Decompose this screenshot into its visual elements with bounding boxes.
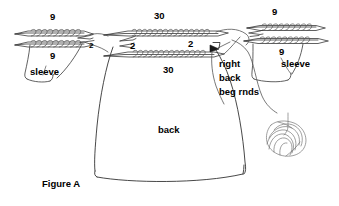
back-bottom-stitch-count: 30 [163,64,174,75]
needle-right-sleeve-lower [244,39,328,44]
needle-center-lower [104,52,224,57]
arrow-marker-icon [210,43,220,53]
needle-right-sleeve-upper [247,26,325,31]
right-sleeve-bottom-stitch-count: 9 [279,46,284,57]
back-label: back [158,124,180,135]
stitches-center-upper [132,29,209,36]
back-needle-count-left: 2 [130,40,135,51]
left-sleeve-top-stitch-count: 9 [50,11,55,22]
back-needle-count-right: 2 [188,38,193,49]
left-sleeve-label: sleeve [30,66,59,77]
needle-tips-right-sleeve-left [249,30,263,37]
needle-left-sleeve-upper [15,31,93,36]
marker-note-line1: right [219,58,240,69]
join-curves-left [93,34,108,52]
figure-a-diagram: 9 9 2 sleeve 30 2 2 30 back 9 9 sleeve r… [0,0,339,206]
diagram-canvas [0,0,339,206]
marker-note-line2: back [219,72,241,83]
marker-note-line3: beg rnds [219,86,259,97]
back-top-stitch-count: 30 [154,10,165,21]
right-sleeve-top-stitch-count: 9 [272,6,277,17]
figure-caption: Figure A [42,178,80,189]
right-sleeve-label: sleeve [281,58,310,69]
left-sleeve-needle-count: 2 [89,41,93,50]
stitches-center-lower [133,50,205,57]
left-sleeve-bottom-stitch-count: 9 [50,50,55,61]
yarn-ball-icon [266,113,306,156]
